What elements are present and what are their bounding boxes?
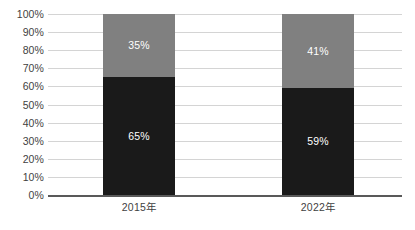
y-axis-tick-label: 70% bbox=[0, 63, 44, 74]
stacked-bar-chart: 100%90%80%70%60%50%40%30%20%10%0% 65%35%… bbox=[0, 0, 415, 230]
y-axis-tick-label: 20% bbox=[0, 154, 44, 165]
y-axis-tick-label: 30% bbox=[0, 135, 44, 146]
y-axis-tick-label: 0% bbox=[0, 190, 44, 201]
x-axis-category-label: 2022年 bbox=[268, 202, 368, 213]
y-axis-tick-label: 40% bbox=[0, 117, 44, 128]
y-axis-tick-label: 90% bbox=[0, 27, 44, 38]
y-axis-tick-label: 80% bbox=[0, 45, 44, 56]
x-axis: 2015年2022年 bbox=[48, 0, 402, 230]
y-axis-tick-label: 50% bbox=[0, 99, 44, 110]
y-axis-tick-label: 10% bbox=[0, 172, 44, 183]
x-axis-category-label: 2015年 bbox=[89, 202, 189, 213]
y-axis-tick-label: 100% bbox=[0, 9, 44, 20]
y-axis: 100%90%80%70%60%50%40%30%20%10%0% bbox=[0, 0, 44, 230]
y-axis-tick-label: 60% bbox=[0, 81, 44, 92]
